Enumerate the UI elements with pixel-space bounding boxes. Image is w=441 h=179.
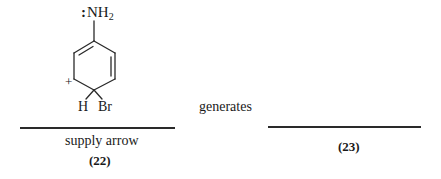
compound-label-23: (23): [338, 139, 360, 155]
bromine-atom-label: Br: [98, 99, 112, 114]
lone-pair: :: [81, 4, 86, 20]
bond-to-h: [86, 90, 94, 99]
amine-subscript: 2: [109, 11, 114, 22]
ring-bond-top-right: [94, 41, 115, 53]
right-blank-line: [268, 126, 421, 128]
amine-nh: NH: [87, 4, 109, 20]
generates-text: generates: [199, 99, 252, 115]
cyclohexadienyl-cation-structure: [0, 0, 441, 179]
ring-bond-bottom-right: [94, 79, 115, 90]
bond-to-br: [94, 90, 102, 99]
ring-bond-bottom-left: [74, 79, 94, 90]
left-blank-line: [20, 127, 175, 129]
compound-label-22: (22): [89, 153, 111, 169]
double-bond-inner-top-left: [79, 47, 93, 56]
hydrogen-atom-label: H: [78, 99, 88, 114]
positive-charge: +: [65, 75, 72, 89]
amine-group-label: :NH2: [81, 3, 114, 21]
supply-arrow-caption: supply arrow: [65, 133, 139, 149]
